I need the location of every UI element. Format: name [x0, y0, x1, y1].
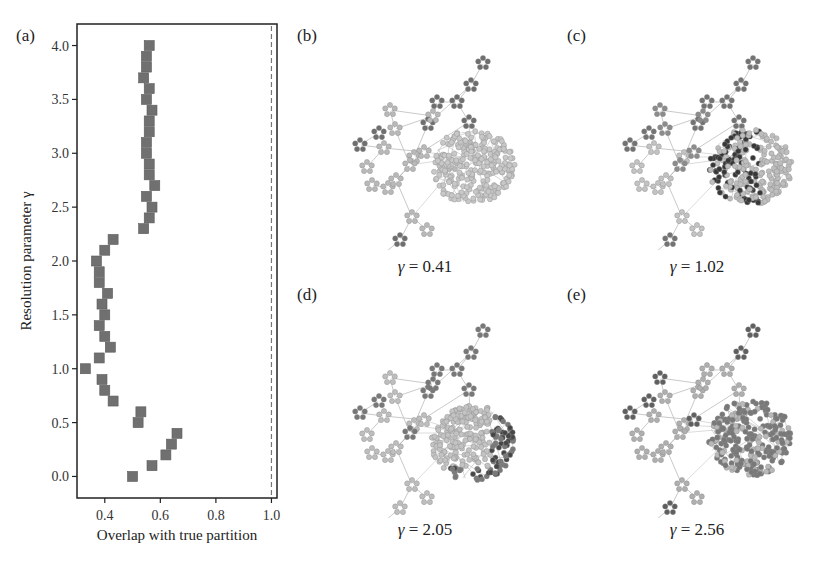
data-point: [108, 396, 118, 406]
x-axis-label: Overlap with true partition: [97, 527, 258, 543]
plot-frame: [77, 24, 277, 498]
data-point: [141, 148, 151, 158]
data-point: [100, 331, 110, 341]
y-tick-label: 3.5: [52, 92, 70, 107]
network-graph-d: [290, 268, 560, 518]
data-point: [94, 353, 104, 363]
y-tick-label: 1.5: [52, 308, 70, 323]
data-point: [136, 407, 146, 417]
y-tick-label: 0.0: [52, 469, 70, 484]
gamma-symbol: γ: [670, 520, 677, 539]
data-point: [94, 267, 104, 277]
y-tick-label: 2.0: [52, 254, 70, 269]
overlap-scatter-plot: 0.40.60.81.00.00.51.01.52.02.53.03.54.0O…: [0, 0, 290, 567]
data-point: [144, 213, 154, 223]
gamma-value-d: = 2.05: [409, 520, 453, 539]
data-point: [94, 321, 104, 331]
data-point: [128, 471, 138, 481]
data-point: [141, 51, 151, 61]
data-point: [147, 105, 157, 115]
data-point: [91, 256, 101, 266]
y-tick-label: 3.0: [52, 146, 70, 161]
y-tick-label: 4.0: [52, 39, 70, 54]
data-point: [100, 385, 110, 395]
data-point: [97, 299, 107, 309]
data-point: [141, 138, 151, 148]
y-tick-label: 1.0: [52, 362, 70, 377]
data-point: [144, 116, 154, 126]
x-tick-label: 0.4: [96, 508, 114, 523]
data-point: [103, 288, 113, 298]
data-point: [147, 461, 157, 471]
data-point: [105, 342, 115, 352]
data-point: [161, 450, 171, 460]
data-point: [133, 418, 143, 428]
data-point: [141, 62, 151, 72]
network-graph-b: [290, 0, 560, 250]
network-graph-e: [560, 268, 836, 518]
data-point: [139, 73, 149, 83]
data-point: [80, 364, 90, 374]
x-tick-label: 1.0: [263, 508, 281, 523]
data-point: [172, 428, 182, 438]
data-point: [144, 41, 154, 51]
data-point: [144, 159, 154, 169]
gamma-symbol: γ: [398, 520, 405, 539]
data-point: [108, 234, 118, 244]
data-point: [166, 439, 176, 449]
data-point: [144, 170, 154, 180]
data-point: [141, 94, 151, 104]
data-point: [144, 127, 154, 137]
data-point: [144, 84, 154, 94]
y-tick-label: 2.5: [52, 200, 70, 215]
gamma-caption-d: γ = 2.05: [325, 520, 525, 540]
y-tick-label: 0.5: [52, 416, 70, 431]
x-tick-label: 0.6: [152, 508, 170, 523]
data-point: [139, 224, 149, 234]
data-point: [141, 191, 151, 201]
data-point: [150, 181, 160, 191]
data-point: [94, 278, 104, 288]
network-graph-c: [560, 0, 836, 250]
data-point: [100, 310, 110, 320]
gamma-caption-e: γ = 2.56: [597, 520, 797, 540]
data-point: [147, 202, 157, 212]
gamma-value-e: = 2.56: [681, 520, 725, 539]
data-point: [100, 245, 110, 255]
y-axis-label: Resolution parameter γ: [18, 191, 34, 330]
x-tick-label: 0.8: [207, 508, 225, 523]
data-point: [97, 375, 107, 385]
